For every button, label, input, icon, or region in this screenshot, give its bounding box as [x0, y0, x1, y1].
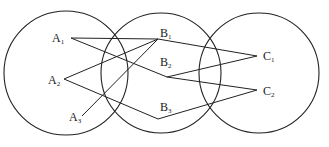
node-label-c1: C1 — [263, 49, 275, 64]
node-label-a3: A3 — [69, 110, 82, 125]
set-circle-a — [4, 11, 128, 135]
node-label-a1: A1 — [52, 31, 65, 46]
node-label-a2: A2 — [48, 73, 61, 88]
edge-b3-c2 — [158, 90, 257, 119]
node-label-b2: B2 — [160, 55, 172, 70]
node-label-c2: C2 — [263, 84, 275, 99]
node-label-b1: B1 — [160, 26, 172, 41]
set-circle-c — [199, 13, 319, 133]
node-label-b3: B3 — [160, 100, 172, 115]
edge-b2-c1 — [167, 56, 257, 77]
edge-a2-b1 — [64, 39, 158, 79]
set-mapping-diagram: A1A2A3B1B2B3C1C2 — [0, 0, 329, 147]
node-labels: A1A2A3B1B2B3C1C2 — [48, 26, 275, 125]
edge-b2-c2 — [167, 77, 257, 90]
edge-a2-b3 — [64, 79, 158, 119]
edge-a1-b1 — [71, 38, 158, 39]
